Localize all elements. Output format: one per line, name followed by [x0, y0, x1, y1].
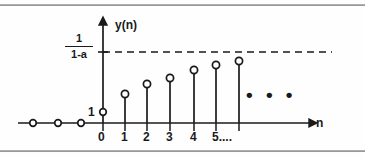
- figure-canvas: 1 1-a y(n) n 1 0 1 2 3 4 5.... • • •: [0, 0, 365, 158]
- x-tick-label-2: 2: [143, 130, 150, 144]
- x-tick-label-5: 5....: [212, 130, 232, 144]
- fraction-bar: [65, 46, 93, 47]
- continuation-ellipsis: • • •: [246, 85, 297, 104]
- x-tick-label-3: 3: [166, 130, 173, 144]
- asymptote-fraction-label: 1 1-a: [62, 32, 96, 60]
- x-tick-label-0: 0: [98, 130, 105, 144]
- origin-value-label: 1: [88, 105, 95, 119]
- x-tick-label-4: 4: [190, 130, 197, 144]
- stem-plot-graphic: [0, 0, 365, 158]
- fraction-numerator: 1: [62, 32, 96, 45]
- fraction-denominator: 1-a: [62, 48, 96, 61]
- stem-lines: [125, 61, 239, 123]
- x-axis-label: n: [316, 116, 323, 130]
- x-tick-label-1: 1: [121, 130, 128, 144]
- sample-markers: [100, 57, 243, 115]
- y-axis-label: y(n): [115, 18, 137, 32]
